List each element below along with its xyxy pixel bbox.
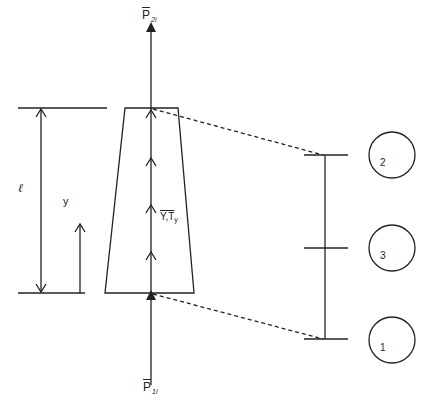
node-2-circle — [369, 132, 415, 178]
top-load-label: P2i — [142, 6, 156, 22]
node-1-circle — [369, 317, 415, 363]
coordinate-label: y — [63, 196, 69, 207]
node-1-label: 1 — [380, 343, 386, 353]
top-load-arrowhead — [146, 22, 156, 32]
distributed-load-label: Y,Ty — [160, 212, 178, 222]
length-label: ℓ — [18, 182, 23, 194]
top-load-symbol: P — [142, 8, 150, 22]
bottom-projection-line — [153, 294, 323, 339]
bottom-load-symbol: P — [143, 380, 151, 394]
node-3-circle — [369, 225, 415, 271]
node-3-label: 3 — [380, 251, 386, 261]
distributed-load-text: Y,T — [160, 211, 174, 222]
node-2-label: 2 — [380, 158, 386, 168]
bottom-load-label: P1i — [143, 378, 157, 394]
tapered-bar — [105, 108, 194, 293]
top-load-subscript: 2i — [151, 16, 156, 23]
distributed-load-subscript: y — [174, 216, 178, 223]
bottom-load-subscript: 1i — [152, 388, 157, 395]
